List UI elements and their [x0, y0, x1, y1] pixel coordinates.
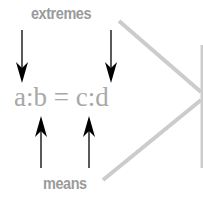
connector-line-top — [119, 21, 201, 92]
means-label: means — [43, 175, 87, 192]
extremes-label: extremes — [31, 5, 91, 22]
arrow-up-icon — [35, 116, 47, 168]
proportion-equation: a:b = c:d — [14, 84, 109, 111]
arrow-down-icon — [16, 30, 28, 83]
arrow-up-icon — [83, 116, 95, 168]
connector-line-bottom — [103, 100, 201, 180]
arrow-down-icon — [105, 30, 117, 83]
